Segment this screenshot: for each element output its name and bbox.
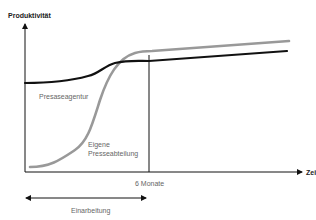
six-month-label: 6 Monate: [135, 180, 164, 188]
y-axis-label: Produktivität: [8, 12, 51, 20]
series-label-presaseagentur: Presaseagentur: [39, 93, 88, 101]
x-axis-label: Zeit: [306, 169, 316, 177]
series-label-eigene-line1: Eigene: [88, 141, 110, 149]
einarbeitung-label: Einarbeitung: [71, 207, 110, 215]
series-presaseagentur: [25, 51, 287, 83]
series-label-eigene-line2: Presseabteilung: [88, 150, 138, 158]
